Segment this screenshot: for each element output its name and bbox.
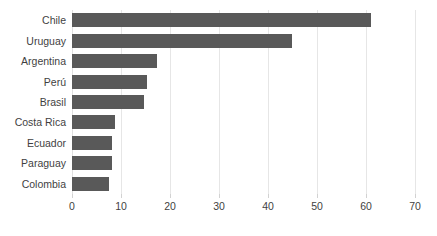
category-label-ecuador: Ecuador xyxy=(0,136,66,150)
bar-costa-rica[interactable] xyxy=(72,115,115,129)
x-tick-mark-30 xyxy=(219,194,220,198)
x-tick-label-0: 0 xyxy=(69,200,75,213)
bar-chart: ChileUruguayArgentinaPerúBrasilCosta Ric… xyxy=(0,0,437,236)
category-label-perú: Perú xyxy=(0,75,66,89)
bar-uruguay[interactable] xyxy=(72,34,292,48)
bar-fill xyxy=(72,95,144,109)
x-axis: 010203040506070 xyxy=(72,194,415,220)
bar-brasil[interactable] xyxy=(72,95,144,109)
category-label-uruguay: Uruguay xyxy=(0,34,66,48)
bar-fill xyxy=(72,54,157,68)
x-tick-label-70: 70 xyxy=(409,200,421,213)
bar-colombia[interactable] xyxy=(72,177,109,191)
category-label-argentina: Argentina xyxy=(0,54,66,68)
category-axis-labels: ChileUruguayArgentinaPerúBrasilCosta Ric… xyxy=(0,10,66,194)
plot-area xyxy=(72,10,415,194)
bar-fill xyxy=(72,34,292,48)
category-label-chile: Chile xyxy=(0,13,66,27)
x-tick-label-20: 20 xyxy=(164,200,176,213)
bar-paraguay[interactable] xyxy=(72,156,112,170)
x-tick-label-40: 40 xyxy=(262,200,274,213)
x-tick-label-10: 10 xyxy=(115,200,127,213)
bar-ecuador[interactable] xyxy=(72,136,112,150)
x-tick-mark-70 xyxy=(415,194,416,198)
category-label-colombia: Colombia xyxy=(0,177,66,191)
gridline-70 xyxy=(415,10,416,194)
bar-chile[interactable] xyxy=(72,13,371,27)
bar-fill xyxy=(72,156,112,170)
x-tick-label-30: 30 xyxy=(213,200,225,213)
bar-fill xyxy=(72,177,109,191)
x-tick-label-50: 50 xyxy=(311,200,323,213)
bar-perú[interactable] xyxy=(72,75,147,89)
bar-series xyxy=(72,10,415,194)
x-tick-mark-60 xyxy=(366,194,367,198)
x-tick-mark-20 xyxy=(170,194,171,198)
x-tick-mark-0 xyxy=(72,194,73,198)
x-tick-mark-10 xyxy=(121,194,122,198)
x-tick-label-60: 60 xyxy=(360,200,372,213)
category-label-paraguay: Paraguay xyxy=(0,156,66,170)
bar-argentina[interactable] xyxy=(72,54,157,68)
x-tick-mark-50 xyxy=(317,194,318,198)
category-label-brasil: Brasil xyxy=(0,95,66,109)
bar-fill xyxy=(72,13,371,27)
bar-fill xyxy=(72,75,147,89)
x-tick-mark-40 xyxy=(268,194,269,198)
bar-fill xyxy=(72,136,112,150)
category-label-costa-rica: Costa Rica xyxy=(0,115,66,129)
bar-fill xyxy=(72,115,115,129)
